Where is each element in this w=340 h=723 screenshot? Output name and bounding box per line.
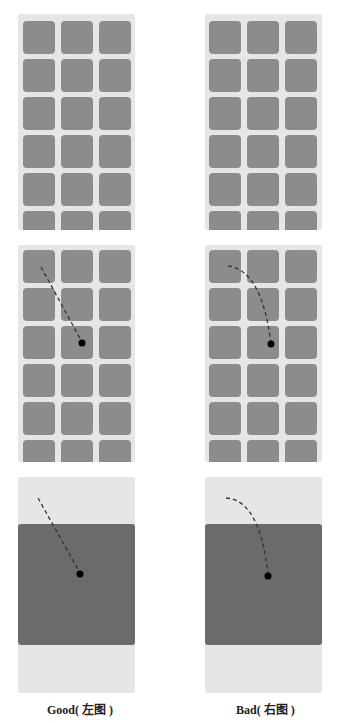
tile-grid	[209, 250, 317, 462]
tile	[247, 59, 279, 92]
bad-expanded-panel	[205, 477, 322, 693]
good-expanded-panel	[18, 477, 135, 693]
tile	[23, 211, 55, 230]
tile	[99, 288, 131, 321]
tile	[209, 250, 241, 283]
tile	[209, 402, 241, 435]
tile	[23, 288, 55, 321]
tile	[61, 97, 93, 130]
tile	[61, 211, 93, 230]
tile	[285, 97, 317, 130]
tile-grid	[23, 250, 131, 462]
tile	[61, 21, 93, 54]
tile	[285, 135, 317, 168]
bad-caption: Bad( 右图 )	[236, 700, 295, 718]
tile	[285, 402, 317, 435]
tile	[247, 97, 279, 130]
tile	[209, 326, 241, 359]
tile	[61, 135, 93, 168]
tile	[23, 59, 55, 92]
tile	[247, 288, 279, 321]
tile	[209, 288, 241, 321]
tile	[209, 59, 241, 92]
tile	[23, 326, 55, 359]
tile	[99, 250, 131, 283]
tile-grid	[209, 21, 317, 230]
tile	[285, 288, 317, 321]
good-touch-panel	[18, 245, 135, 462]
tile	[23, 135, 55, 168]
tile	[209, 135, 241, 168]
tile	[99, 173, 131, 206]
tile	[285, 364, 317, 397]
tile	[209, 440, 241, 462]
expanded-tile	[18, 524, 135, 645]
tile	[23, 364, 55, 397]
tile	[285, 211, 317, 230]
tile	[61, 250, 93, 283]
tile	[61, 173, 93, 206]
tile	[23, 440, 55, 462]
tile	[247, 250, 279, 283]
tile	[61, 440, 93, 462]
tile	[99, 97, 131, 130]
tile	[285, 440, 317, 462]
tile	[99, 364, 131, 397]
tile	[285, 59, 317, 92]
tile	[247, 211, 279, 230]
expanded-tile	[205, 524, 322, 645]
tile	[209, 211, 241, 230]
tile	[99, 440, 131, 462]
tile	[285, 173, 317, 206]
bad-touch-panel	[205, 245, 322, 462]
tile	[247, 402, 279, 435]
tile	[247, 364, 279, 397]
tile	[209, 173, 241, 206]
tile	[247, 326, 279, 359]
bad-grid-panel	[205, 14, 322, 230]
good-grid-panel	[18, 14, 135, 230]
tile	[99, 402, 131, 435]
tile	[61, 59, 93, 92]
tile	[285, 250, 317, 283]
tile-grid	[23, 21, 131, 230]
tile	[23, 250, 55, 283]
tile	[99, 59, 131, 92]
tile	[285, 326, 317, 359]
tile	[209, 21, 241, 54]
tile	[247, 135, 279, 168]
tile	[23, 21, 55, 54]
tile	[247, 440, 279, 462]
tile	[23, 402, 55, 435]
good-caption: Good( 左图 )	[47, 700, 113, 718]
tile	[99, 135, 131, 168]
tile	[23, 97, 55, 130]
tile	[61, 402, 93, 435]
tile	[61, 364, 93, 397]
tile	[209, 97, 241, 130]
tile	[61, 326, 93, 359]
tile	[23, 173, 55, 206]
tile	[247, 21, 279, 54]
tile	[61, 288, 93, 321]
tile	[209, 364, 241, 397]
tile	[99, 21, 131, 54]
tile	[99, 326, 131, 359]
tile	[247, 173, 279, 206]
tile	[285, 21, 317, 54]
tile	[99, 211, 131, 230]
